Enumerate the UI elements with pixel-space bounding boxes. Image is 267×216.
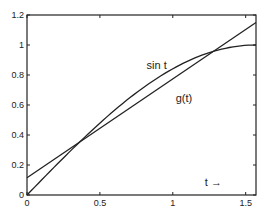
y-tick-label: 0.6 — [11, 100, 24, 110]
x-tick-label: 1 — [170, 198, 175, 208]
x-tick-label: 0.5 — [94, 198, 107, 208]
x-tick-label: 1.5 — [239, 198, 252, 208]
plot-area — [27, 23, 256, 196]
y-tick-label: 1.2 — [11, 10, 24, 20]
y-tick-label: 0.8 — [11, 70, 24, 80]
chart: 00.511.500.20.40.60.811.2 sin t g(t) t → — [0, 0, 267, 216]
sin-label: sin t — [147, 59, 167, 71]
sin-curve — [27, 45, 256, 195]
g-line — [27, 23, 256, 178]
y-tick-label: 0.2 — [11, 160, 24, 170]
y-tick-label: 0.4 — [11, 130, 24, 140]
x-axis-label: t → — [205, 176, 222, 188]
x-tick-label: 0 — [24, 198, 29, 208]
y-tick-label: 0 — [19, 190, 24, 200]
y-tick-label: 1 — [19, 40, 24, 50]
axes-box — [27, 15, 256, 195]
g-label: g(t) — [176, 92, 193, 104]
